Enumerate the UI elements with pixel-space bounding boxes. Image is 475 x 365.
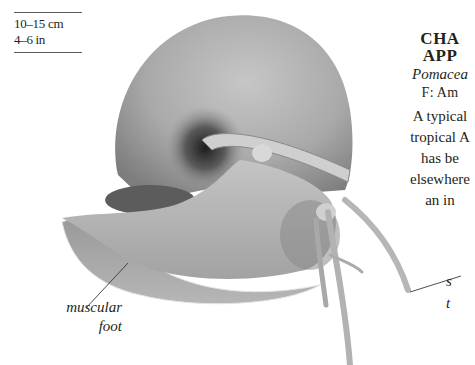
foot-label-line2: foot	[10, 317, 122, 336]
species-header: CHA APP Pomacea F: Am A typical tropical…	[350, 30, 475, 211]
foot-label-line1: muscular	[10, 298, 122, 317]
siphon-label-line2: t	[446, 292, 452, 314]
foot-annotation: muscular foot	[10, 298, 122, 336]
common-name-line1: CHA	[350, 30, 475, 47]
common-name-line2: APP	[350, 47, 475, 64]
family-name: F: Am	[350, 84, 475, 102]
scientific-name: Pomacea	[350, 65, 475, 84]
eye	[252, 144, 272, 162]
description-line: A typical	[350, 106, 475, 127]
description-line: an in	[350, 190, 475, 211]
description-line: has be	[350, 148, 475, 169]
description: A typical tropical A has be elsewhere an…	[350, 106, 475, 211]
tentacle-3	[345, 200, 408, 290]
siphon-annotation: s t	[446, 270, 452, 314]
siphon-leader-line	[410, 276, 461, 292]
description-line: elsewhere	[350, 169, 475, 190]
siphon-label-line1: s	[446, 270, 452, 292]
description-line: tropical A	[350, 127, 475, 148]
